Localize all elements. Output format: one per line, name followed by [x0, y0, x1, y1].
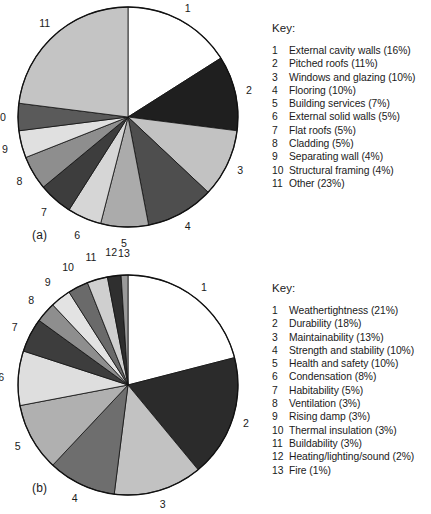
- slice-label-9: 9: [45, 276, 51, 288]
- legend-number: 9: [272, 150, 289, 163]
- legend-number: 4: [272, 344, 289, 357]
- legend-text: Separating wall (4%): [289, 150, 431, 163]
- legend-row: 13Fire (1%): [272, 464, 431, 477]
- slice-label-1: 1: [201, 281, 207, 293]
- legend-text: Other (23%): [289, 177, 431, 190]
- legend-number: 1: [272, 304, 289, 317]
- legend-number: 6: [272, 110, 289, 123]
- legend-text: Strength and stability (10%): [289, 344, 431, 357]
- slice-label-10: 10: [62, 261, 74, 273]
- legend-text: Habitability (5%): [289, 384, 431, 397]
- legend-a: Key: 1External cavity walls (16%)2Pitche…: [272, 22, 431, 190]
- legend-number: 10: [272, 164, 289, 177]
- legend-number: 11: [272, 177, 289, 190]
- legend-text: Building services (7%): [289, 97, 431, 110]
- slice-label-5: 5: [15, 440, 21, 452]
- legend-number: 10: [272, 424, 289, 437]
- slice-label-9: 9: [2, 143, 8, 155]
- legend-row: 8Ventilation (3%): [272, 397, 431, 410]
- legend-row: 2Pitched roofs (11%): [272, 57, 431, 70]
- legend-b-title: Key:: [272, 282, 431, 294]
- slice-label-13: 13: [118, 247, 130, 259]
- panel-b-label: (b): [32, 481, 47, 495]
- legend-row: 11Buildability (3%): [272, 437, 431, 450]
- legend-text: Heating/lighting/sound (2%): [289, 450, 431, 463]
- legend-number: 6: [272, 370, 289, 383]
- legend-number: 13: [272, 464, 289, 477]
- legend-text: Condensation (8%): [289, 370, 431, 383]
- legend-text: Structural framing (4%): [289, 164, 431, 177]
- legend-row: 3Maintainability (13%): [272, 331, 431, 344]
- legend-a-rows: 1External cavity walls (16%)2Pitched roo…: [272, 44, 431, 190]
- legend-number: 11: [272, 437, 289, 450]
- slice-label-6: 6: [0, 371, 4, 383]
- slice-label-7: 7: [41, 206, 47, 218]
- legend-row: 12Heating/lighting/sound (2%): [272, 450, 431, 463]
- legend-number: 5: [272, 357, 289, 370]
- legend-number: 7: [272, 124, 289, 137]
- legend-text: Pitched roofs (11%): [289, 57, 431, 70]
- slice-label-2: 2: [243, 417, 249, 429]
- panel-a-label: (a): [32, 228, 47, 242]
- legend-text: Ventilation (3%): [289, 397, 431, 410]
- legend-text: Health and safety (10%): [289, 357, 431, 370]
- legend-text: External cavity walls (16%): [289, 44, 431, 57]
- legend-number: 12: [272, 450, 289, 463]
- legend-row: 8Cladding (5%): [272, 137, 431, 150]
- legend-b: Key: 1Weathertightness (21%)2Durability …: [272, 282, 431, 477]
- legend-row: 1Weathertightness (21%): [272, 304, 431, 317]
- legend-number: 8: [272, 137, 289, 150]
- legend-row: 9Separating wall (4%): [272, 150, 431, 163]
- slice-label-1: 1: [185, 2, 191, 14]
- legend-row: 4Strength and stability (10%): [272, 344, 431, 357]
- legend-text: Flooring (10%): [289, 84, 431, 97]
- slice-label-6: 6: [74, 229, 80, 241]
- legend-text: Cladding (5%): [289, 137, 431, 150]
- slice-label-4: 4: [185, 220, 191, 232]
- legend-number: 2: [272, 317, 289, 330]
- legend-row: 1External cavity walls (16%): [272, 44, 431, 57]
- legend-number: 4: [272, 84, 289, 97]
- legend-row: 9Rising damp (3%): [272, 410, 431, 423]
- legend-text: Windows and glazing (10%): [289, 71, 431, 84]
- legend-row: 5Health and safety (10%): [272, 357, 431, 370]
- panel-a: 1234567891011 (a) Key: 1External cavity …: [0, 0, 431, 258]
- legend-number: 5: [272, 97, 289, 110]
- slice-label-11: 11: [39, 17, 50, 29]
- pie-chart-a: 1234567891011: [0, 0, 250, 250]
- slice-label-10: 10: [0, 111, 6, 123]
- legend-text: Rising damp (3%): [289, 410, 431, 423]
- legend-text: External solid walls (5%): [289, 110, 431, 123]
- legend-row: 6External solid walls (5%): [272, 110, 431, 123]
- legend-number: 8: [272, 397, 289, 410]
- slice-label-2: 2: [246, 84, 252, 96]
- slice-label-8: 8: [28, 294, 34, 306]
- slice-label-11: 11: [85, 251, 96, 263]
- pie-svg-b: [0, 256, 250, 506]
- legend-number: 2: [272, 57, 289, 70]
- legend-text: Thermal insulation (3%): [289, 424, 431, 437]
- legend-number: 3: [272, 71, 289, 84]
- slice-label-4: 4: [72, 492, 78, 504]
- legend-row: 6Condensation (8%): [272, 370, 431, 383]
- legend-number: 9: [272, 410, 289, 423]
- legend-row: 10Structural framing (4%): [272, 164, 431, 177]
- legend-number: 1: [272, 44, 289, 57]
- slice-label-12: 12: [105, 246, 117, 258]
- legend-row: 3Windows and glazing (10%): [272, 71, 431, 84]
- legend-a-title: Key:: [272, 22, 431, 34]
- legend-text: Maintainability (13%): [289, 331, 431, 344]
- slice-label-3: 3: [160, 498, 166, 510]
- legend-row: 10Thermal insulation (3%): [272, 424, 431, 437]
- pie-chart-b: 12345678910111213: [0, 256, 250, 506]
- legend-row: 7Flat roofs (5%): [272, 124, 431, 137]
- slice-label-7: 7: [12, 321, 18, 333]
- legend-text: Fire (1%): [289, 464, 431, 477]
- legend-row: 11Other (23%): [272, 177, 431, 190]
- legend-row: 7Habitability (5%): [272, 384, 431, 397]
- legend-text: Durability (18%): [289, 317, 431, 330]
- legend-row: 2Durability (18%): [272, 317, 431, 330]
- slice-label-3: 3: [237, 164, 243, 176]
- legend-number: 7: [272, 384, 289, 397]
- pie-svg-a: [0, 0, 250, 250]
